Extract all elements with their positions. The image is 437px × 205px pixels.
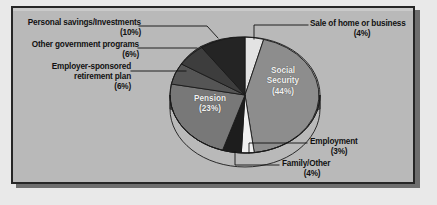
label-sale-of-home-text: Sale of home or business bbox=[310, 19, 406, 28]
label-family-other: Family/Other (4%) bbox=[282, 159, 372, 179]
leader-sale-of-home bbox=[254, 25, 308, 39]
label-employment-text: Employment bbox=[310, 137, 358, 146]
label-employment: Employment (3%) bbox=[310, 137, 400, 157]
label-other-government: Other government programs (6%) bbox=[0, 40, 139, 60]
slice-label-pension-line1: Pension bbox=[194, 94, 226, 103]
slice-label-social-security-pct: (44%) bbox=[272, 87, 294, 96]
label-personal-savings: Personal savings/Investments (10%) bbox=[0, 18, 141, 38]
label-sale-of-home: Sale of home or business (4%) bbox=[310, 19, 420, 39]
label-other-government-text: Other government programs bbox=[32, 40, 139, 49]
label-employer-sponsored-line2: retirement plan bbox=[0, 72, 131, 82]
label-employer-sponsored-pct: (6%) bbox=[0, 82, 131, 92]
label-sale-of-home-pct: (4%) bbox=[310, 29, 414, 39]
slice-label-pension-pct: (23%) bbox=[199, 104, 221, 113]
label-employer-sponsored-line1: Employer-sponsored bbox=[52, 62, 131, 71]
slice-label-pension: Pension (23%) bbox=[181, 94, 239, 115]
slice-label-social-security: Social Security (44%) bbox=[254, 66, 312, 97]
label-employer-sponsored: Employer-sponsored retirement plan (6%) bbox=[0, 62, 131, 93]
label-employment-pct: (3%) bbox=[310, 147, 368, 157]
label-family-other-text: Family/Other bbox=[282, 159, 330, 168]
label-personal-savings-text: Personal savings/Investments bbox=[28, 18, 141, 27]
label-other-government-pct: (6%) bbox=[0, 50, 139, 60]
pie-chart-stage: Personal savings/Investments (10%) Other… bbox=[11, 6, 415, 184]
figure-root: Personal savings/Investments (10%) Other… bbox=[0, 0, 437, 205]
leader-personal-savings bbox=[139, 26, 218, 38]
label-family-other-pct: (4%) bbox=[282, 169, 342, 179]
label-personal-savings-pct: (10%) bbox=[0, 28, 141, 38]
slice-label-social-security-line2: Security bbox=[267, 76, 299, 85]
slice-label-social-security-line1: Social bbox=[271, 66, 295, 75]
